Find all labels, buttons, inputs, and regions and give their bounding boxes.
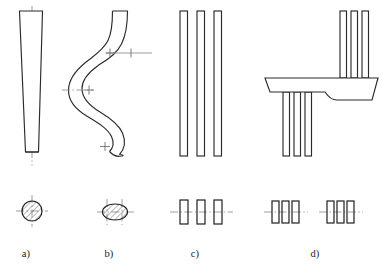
part-c-flat-bars	[180, 11, 222, 156]
part-b-inner-contour	[69, 11, 114, 152]
part-d-plate	[265, 78, 378, 100]
part-d-lower-bar-3	[305, 92, 312, 156]
part-d-lower-bar-2	[294, 92, 301, 156]
caption-a: a)	[22, 248, 31, 260]
caption-c: c)	[191, 248, 200, 260]
part-b-outer-contour	[82, 11, 128, 155]
part-d-upper-bar-1	[340, 11, 347, 78]
part-d-bent-assembly	[265, 11, 378, 156]
technical-drawing-sheet: a) b) c) d)	[0, 0, 383, 271]
section-a-hatching	[20, 199, 44, 223]
section-c-rectangles	[170, 200, 233, 224]
part-c-bar-2	[197, 11, 205, 156]
section-d-rectangles	[264, 201, 363, 223]
part-c-bar-1	[180, 11, 188, 156]
part-b-serpentine-rod	[62, 11, 152, 156]
figure-canvas: a) b) c) d)	[0, 0, 383, 271]
section-a-circle	[16, 195, 48, 227]
part-d-lower-bar-1	[283, 92, 290, 156]
part-b-cross-lower	[100, 142, 110, 151]
part-c-bar-3	[214, 11, 222, 156]
section-b-ellipse	[97, 199, 135, 225]
caption-d: d)	[310, 248, 319, 260]
part-d-upper-bar-3	[362, 11, 369, 78]
part-d-upper-bar-2	[351, 11, 358, 78]
part-b-cross-middle	[85, 86, 94, 95]
caption-b: b)	[104, 248, 113, 260]
part-a-outline	[20, 11, 43, 152]
part-a-tapered-rod	[20, 6, 43, 166]
